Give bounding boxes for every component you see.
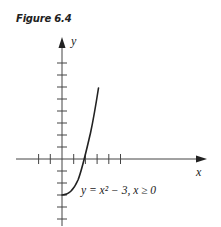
y-axis [59,37,66,226]
function-curve [62,88,99,195]
x-axis-label: x [195,165,202,179]
equation-label: y = x² − 3, x ≥ 0 [80,184,156,197]
y-axis-label: y [70,34,77,48]
x-axis-arrow-icon [196,156,207,163]
function-plot: y x y = x² − 3, x ≥ 0 [0,0,221,227]
x-axis [16,156,207,163]
y-axis-arrow-icon [59,37,66,48]
